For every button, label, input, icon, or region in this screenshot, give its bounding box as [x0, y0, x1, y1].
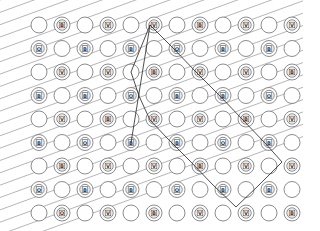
lattice-node-plain[interactable]: [192, 182, 208, 198]
lattice-node-plain[interactable]: [54, 135, 70, 151]
lattice-node-marked[interactable]: B: [123, 182, 139, 198]
lattice-node-marked[interactable]: V: [192, 64, 208, 80]
lattice-node-plain[interactable]: [169, 111, 185, 127]
lattice-node-plain[interactable]: [31, 158, 47, 174]
lattice-node-marked[interactable]: V: [192, 205, 208, 221]
lattice-node-plain[interactable]: [215, 64, 231, 80]
lattice-node-plain[interactable]: [77, 17, 93, 33]
lattice-node-marked[interactable]: O: [77, 135, 93, 151]
lattice-node-plain[interactable]: [261, 205, 277, 221]
lattice-node-plain[interactable]: [284, 182, 300, 198]
lattice-node-marked[interactable]: B: [146, 205, 162, 221]
lattice-node-marked[interactable]: V: [100, 17, 116, 33]
lattice-node-marked[interactable]: B: [77, 41, 93, 57]
lattice-node-plain[interactable]: [192, 88, 208, 104]
lattice-node-plain[interactable]: [77, 111, 93, 127]
lattice-node-plain[interactable]: [123, 111, 139, 127]
lattice-node-marked[interactable]: B: [169, 88, 185, 104]
lattice-node-plain[interactable]: [123, 158, 139, 174]
lattice-node-plain[interactable]: [77, 64, 93, 80]
lattice-node-marked[interactable]: V: [146, 17, 162, 33]
lattice-node-plain[interactable]: [54, 41, 70, 57]
lattice-node-marked[interactable]: B: [215, 88, 231, 104]
lattice-node-marked[interactable]: V: [146, 158, 162, 174]
lattice-node-plain[interactable]: [31, 205, 47, 221]
lattice-node-plain[interactable]: [215, 111, 231, 127]
lattice-node-marked[interactable]: V: [284, 111, 300, 127]
lattice-node-plain[interactable]: [215, 205, 231, 221]
lattice-node-plain[interactable]: [54, 88, 70, 104]
lattice-node-marked[interactable]: V: [54, 111, 70, 127]
lattice-node-plain[interactable]: [77, 205, 93, 221]
lattice-node-marked[interactable]: B: [54, 17, 70, 33]
lattice-node-marked[interactable]: O: [169, 182, 185, 198]
lattice-node-marked[interactable]: V: [238, 64, 254, 80]
lattice-node-plain[interactable]: [261, 17, 277, 33]
lattice-node-plain[interactable]: [169, 64, 185, 80]
lattice-node-plain[interactable]: [31, 64, 47, 80]
lattice-node-plain[interactable]: [238, 41, 254, 57]
lattice-node-plain[interactable]: [238, 135, 254, 151]
lattice-node-plain[interactable]: [192, 135, 208, 151]
lattice-node-marked[interactable]: B: [123, 41, 139, 57]
lattice-node-plain[interactable]: [169, 158, 185, 174]
lattice-node-marked[interactable]: V: [284, 158, 300, 174]
lattice-node-plain[interactable]: [169, 17, 185, 33]
lattice-node-marked[interactable]: B: [284, 64, 300, 80]
lattice-node-marked[interactable]: V: [54, 64, 70, 80]
lattice-node-marked[interactable]: V: [100, 64, 116, 80]
lattice-node-plain[interactable]: [284, 88, 300, 104]
lattice-node-plain[interactable]: [146, 182, 162, 198]
lattice-node-plain[interactable]: [100, 88, 116, 104]
lattice-node-marked[interactable]: V: [238, 17, 254, 33]
lattice-node-marked[interactable]: B: [31, 135, 47, 151]
lattice-node-plain[interactable]: [146, 41, 162, 57]
lattice-node-marked[interactable]: B: [261, 41, 277, 57]
lattice-node-plain[interactable]: [261, 111, 277, 127]
lattice-node-marked[interactable]: B: [284, 205, 300, 221]
lattice-node-marked[interactable]: B: [192, 17, 208, 33]
lattice-node-marked[interactable]: B: [146, 64, 162, 80]
lattice-node-plain[interactable]: [238, 88, 254, 104]
lattice-node-marked[interactable]: O: [54, 205, 70, 221]
lattice-node-marked[interactable]: O: [261, 88, 277, 104]
lattice-node-plain[interactable]: [192, 41, 208, 57]
lattice-node-plain[interactable]: [100, 135, 116, 151]
lattice-node-marked[interactable]: O: [169, 41, 185, 57]
lattice-node-marked[interactable]: O: [215, 135, 231, 151]
lattice-node-marked[interactable]: B: [261, 182, 277, 198]
lattice-node-marked[interactable]: V: [284, 17, 300, 33]
lattice-node-marked[interactable]: O: [31, 182, 47, 198]
lattice-node-plain[interactable]: [169, 205, 185, 221]
lattice-node-plain[interactable]: [284, 135, 300, 151]
lattice-node-plain[interactable]: [238, 182, 254, 198]
lattice-node-marked[interactable]: V: [192, 111, 208, 127]
lattice-node-plain[interactable]: [146, 88, 162, 104]
lattice-node-plain[interactable]: [123, 205, 139, 221]
lattice-node-plain[interactable]: [284, 41, 300, 57]
lattice-node-plain[interactable]: [261, 64, 277, 80]
lattice-node-marked[interactable]: B: [31, 88, 47, 104]
lattice-node-marked[interactable]: O: [31, 41, 47, 57]
lattice-node-plain[interactable]: [146, 135, 162, 151]
lattice-node-marked[interactable]: B: [215, 41, 231, 57]
lattice-node-marked[interactable]: B: [77, 88, 93, 104]
lattice-node-marked[interactable]: V: [238, 205, 254, 221]
lattice-node-marked[interactable]: B: [54, 158, 70, 174]
lattice-node-plain[interactable]: [123, 17, 139, 33]
lattice-node-plain[interactable]: [77, 158, 93, 174]
lattice-node-marked[interactable]: V: [238, 158, 254, 174]
lattice-node-plain[interactable]: [215, 158, 231, 174]
lattice-node-plain[interactable]: [31, 17, 47, 33]
lattice-node-plain[interactable]: [100, 41, 116, 57]
lattice-node-marked[interactable]: B: [77, 182, 93, 198]
lattice-node-marked[interactable]: B: [100, 111, 116, 127]
lattice-node-plain[interactable]: [54, 182, 70, 198]
lattice-node-plain[interactable]: [261, 158, 277, 174]
lattice-node-plain[interactable]: [31, 111, 47, 127]
lattice-node-plain[interactable]: [215, 17, 231, 33]
lattice-node-marked[interactable]: V: [100, 158, 116, 174]
lattice-node-marked[interactable]: V: [100, 205, 116, 221]
lattice-node-marked[interactable]: B: [238, 111, 254, 127]
lattice-node-plain[interactable]: [100, 182, 116, 198]
